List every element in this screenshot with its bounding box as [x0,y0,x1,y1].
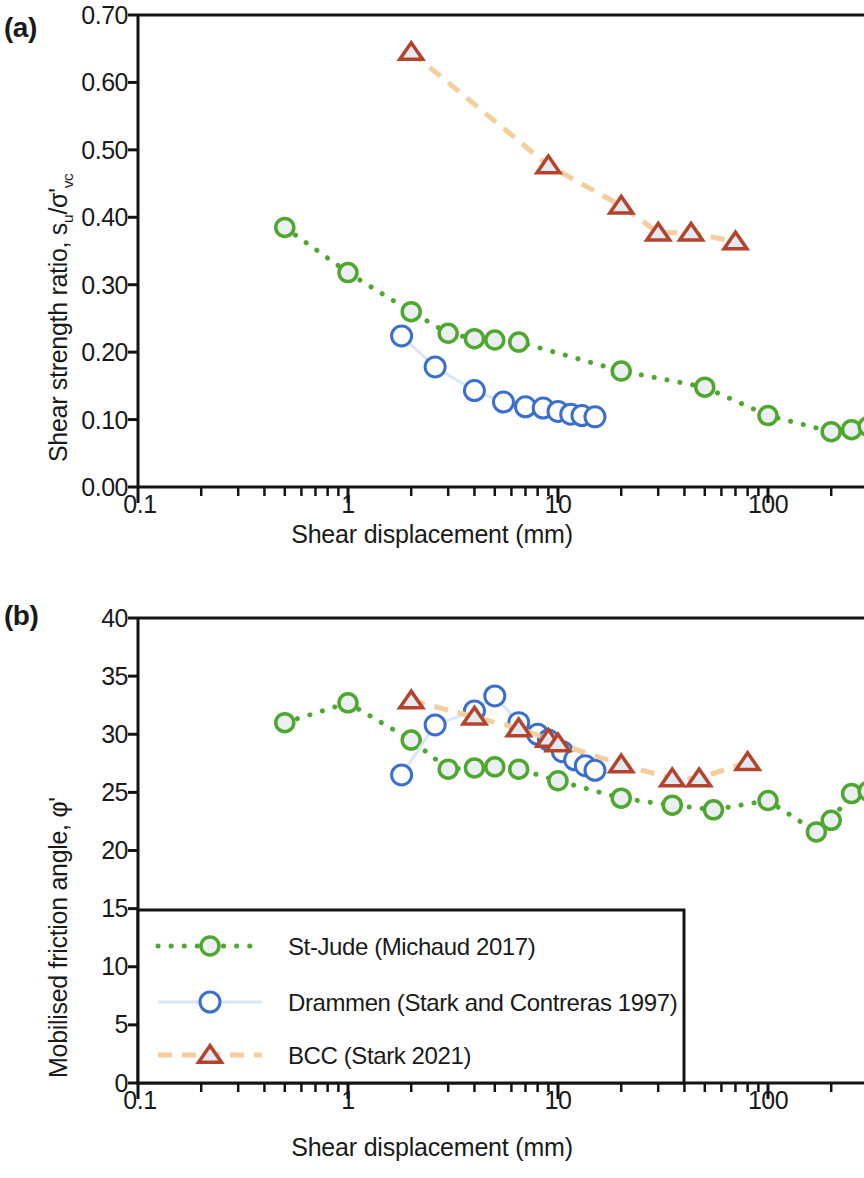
data-point [339,264,357,282]
panel-a-ticks [128,15,831,503]
data-point [392,326,412,346]
legend-label: Drammen (Stark and Contreras 1997) [288,989,677,1016]
data-point [276,714,294,732]
data-point [400,691,423,708]
legend-marker-drammen [200,992,220,1012]
legend-label: BCC (Stark 2021) [288,1042,471,1069]
legend-label: St-Jude (Michaud 2017) [288,933,535,960]
data-point [486,331,504,349]
data-point [402,303,420,321]
data-point [439,324,457,342]
data-point [610,755,633,772]
panel-a-data [276,43,864,441]
panel-a: (a) Shear strength ratio, su/σ'vc Shear … [0,0,864,570]
panel-b-data [276,686,864,841]
data-point [439,760,457,778]
data-point [696,378,714,396]
data-point [485,686,505,706]
data-point [704,801,722,819]
data-point [392,765,412,785]
panel-b: (b) Mobilised friction angle, φ' Shear d… [0,578,864,1178]
data-point [859,782,864,800]
data-point [680,223,703,240]
data-point [464,381,484,401]
data-point [612,362,630,380]
data-point [493,392,513,412]
data-point [402,731,420,749]
data-point [510,333,528,351]
legend: St-Jude (Michaud 2017)Drammen (Stark and… [138,910,684,1083]
panel-a-plot [0,0,864,570]
data-point [859,417,864,435]
legend-marker-st-jude [201,937,219,955]
data-point [759,792,777,810]
data-point [400,43,423,60]
data-point [425,715,445,735]
data-point [663,796,681,814]
data-point [549,772,567,790]
data-point [510,760,528,778]
panel-a-axes [138,15,864,487]
figure-container: (a) Shear strength ratio, su/σ'vc Shear … [0,0,864,1178]
data-point [585,407,605,427]
data-point [465,330,483,348]
data-point [612,789,630,807]
data-point [486,758,504,776]
data-point [276,218,294,236]
data-point [759,407,777,425]
data-point [736,753,759,770]
data-point [425,357,445,377]
data-point [822,423,840,441]
data-point [724,232,747,249]
data-point [339,694,357,712]
data-point [585,760,605,780]
data-point [465,759,483,777]
data-point [537,156,560,173]
panel-b-plot: St-Jude (Michaud 2017)Drammen (Stark and… [0,578,864,1178]
data-point [822,811,840,829]
